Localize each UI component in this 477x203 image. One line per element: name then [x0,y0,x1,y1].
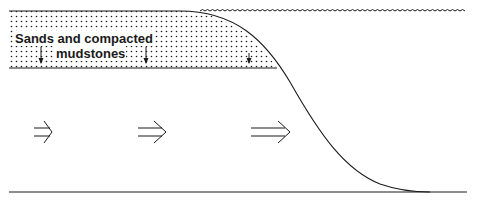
flow-arrow-right-medium-icon [138,121,166,143]
layer-label-line1: Sands and compacted [14,31,154,46]
water-surface-wavy-line [200,10,465,12]
flow-arrow-right-large-icon [251,121,290,143]
layer-label-text: mudstones [55,46,126,61]
flow-arrow-right-small-icon [34,121,52,143]
layer-label-text: Sands and compacted [14,31,154,46]
layer-label-line2: mudstones [55,46,126,61]
